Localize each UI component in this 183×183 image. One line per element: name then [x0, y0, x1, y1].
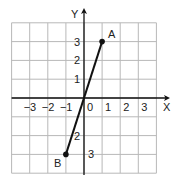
- x-tick-label: 3: [141, 101, 147, 113]
- x-tick-label: 1: [105, 101, 111, 113]
- x-axis-label: X: [163, 101, 171, 113]
- x-tick-label: −3: [24, 101, 37, 113]
- point-b-label: B: [54, 157, 61, 169]
- point-b-marker: [63, 152, 69, 158]
- y-tick-label: 1: [74, 73, 80, 85]
- y-tick-label: 3: [74, 36, 80, 48]
- coordinate-graph: −3−2−112332123 BA X Y 0: [0, 0, 183, 183]
- x-tick-label: 2: [123, 101, 129, 113]
- y-tick-label: 3: [88, 148, 94, 160]
- y-axis-label: Y: [71, 8, 79, 20]
- y-tick-label: 2: [74, 130, 80, 142]
- origin-label: 0: [87, 101, 93, 113]
- x-tick-label: −2: [42, 101, 55, 113]
- y-tick-label: 2: [74, 54, 80, 66]
- x-tick-label: −1: [60, 101, 73, 113]
- point-a-label: A: [108, 28, 116, 40]
- point-a-marker: [99, 39, 105, 45]
